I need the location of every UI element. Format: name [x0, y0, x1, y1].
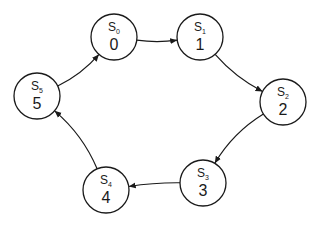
edge-s0-to-s1	[137, 40, 177, 41]
state-node-s3: S33	[180, 160, 226, 206]
edge-s4-to-s5	[55, 111, 98, 169]
state-value: 1	[196, 36, 205, 53]
edge-s5-to-s0	[58, 54, 99, 86]
state-value: 5	[33, 95, 42, 112]
state-value: 2	[279, 101, 288, 118]
state-node-s4: S44	[83, 167, 129, 213]
state-value: 3	[199, 182, 208, 199]
state-node-s0: S00	[91, 14, 137, 60]
edge-s3-to-s4	[129, 183, 180, 187]
edge-s2-to-s3	[215, 114, 264, 163]
state-value: 0	[110, 36, 119, 53]
state-value: 4	[102, 189, 111, 206]
state-node-s2: S22	[260, 79, 306, 125]
state-node-s5: S55	[14, 73, 60, 119]
state-diagram: S00S11S22S33S44S55	[0, 0, 322, 226]
edge-s1-to-s2	[215, 54, 262, 91]
state-node-s1: S11	[177, 14, 223, 60]
